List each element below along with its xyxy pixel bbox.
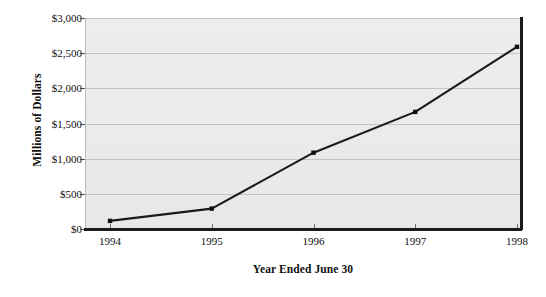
x-tick-label: 1995 (201, 236, 223, 247)
y-tick-label: $1,500 (36, 118, 82, 129)
y-tick-label: $500 (36, 188, 82, 199)
x-tick-label: 1998 (506, 236, 528, 247)
y-tick-label: $2,000 (36, 83, 82, 94)
series-line (110, 47, 517, 221)
y-axis-tick-labels: $0$500$1,000$1,500$2,000$2,500$3,000 (36, 0, 82, 297)
data-series-line (85, 18, 521, 229)
data-point-marker (108, 219, 112, 223)
right-axis-line (520, 17, 523, 230)
y-tick-label: $1,000 (36, 153, 82, 164)
line-chart: Millions of Dollars $0$500$1,000$1,500$2… (0, 0, 546, 297)
y-tick-label: $0 (36, 224, 82, 235)
plot-area (85, 18, 521, 229)
data-point-marker (515, 45, 519, 49)
x-axis-title: Year Ended June 30 (85, 263, 521, 275)
x-axis-line (84, 228, 522, 231)
y-tick-label: $2,500 (36, 48, 82, 59)
y-tick-label: $3,000 (36, 13, 82, 24)
x-tick-label: 1997 (404, 236, 426, 247)
data-point-marker (210, 206, 214, 210)
data-point-marker (413, 110, 417, 114)
x-tick-label: 1996 (303, 236, 325, 247)
data-point-marker (311, 150, 315, 154)
x-tick-label: 1994 (99, 236, 121, 247)
x-axis-tick-labels: 19941995199619971998 (85, 236, 521, 254)
